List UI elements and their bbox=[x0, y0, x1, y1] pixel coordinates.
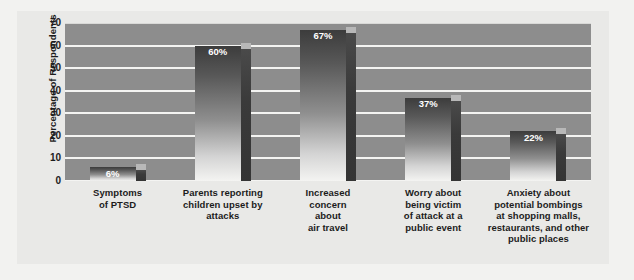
bar-side-face bbox=[556, 134, 566, 181]
category-label-line: public event bbox=[381, 222, 486, 234]
category-label-line: concern bbox=[275, 199, 380, 211]
bar[interactable] bbox=[405, 98, 451, 182]
category-label-line: children upset by bbox=[170, 199, 275, 211]
y-tick-label: 50 bbox=[35, 63, 61, 73]
bar-value-label: 37% bbox=[405, 99, 451, 109]
bars-layer: 6%60%67%37%22% bbox=[65, 23, 591, 181]
bar[interactable] bbox=[300, 30, 346, 181]
bar-side-face bbox=[451, 101, 461, 182]
bar-side-face bbox=[136, 170, 146, 181]
category-label-line: air travel bbox=[275, 222, 380, 234]
category-label-line: being victim bbox=[381, 199, 486, 211]
bar-top-face bbox=[136, 164, 146, 170]
y-tick-label: 10 bbox=[35, 153, 61, 163]
bar-top-face bbox=[241, 43, 251, 49]
bar-group[interactable]: 6% bbox=[90, 23, 146, 181]
category-label: Parents reportingchildren upset byattack… bbox=[170, 187, 275, 222]
bar-top-face bbox=[451, 95, 461, 101]
bar-side-face bbox=[241, 49, 251, 181]
category-label-line: potential bombings bbox=[486, 199, 591, 211]
y-tick-label: 30 bbox=[35, 108, 61, 118]
category-label-line: public places bbox=[486, 233, 591, 245]
bar-side-face bbox=[346, 33, 356, 181]
bar-group[interactable]: 37% bbox=[405, 23, 461, 181]
bar-value-label: 67% bbox=[300, 31, 346, 41]
category-label-line: of PTSD bbox=[65, 199, 170, 211]
y-tick-label: 60 bbox=[35, 41, 61, 51]
bar-top-face bbox=[346, 27, 356, 33]
category-label: Anxiety aboutpotential bombingsat shoppi… bbox=[486, 187, 591, 245]
category-label-line: Parents reporting bbox=[170, 187, 275, 199]
category-label-line: Symptoms bbox=[65, 187, 170, 199]
category-label-line: Anxiety about bbox=[486, 187, 591, 199]
y-tick-label: 20 bbox=[35, 131, 61, 141]
bar-value-label: 60% bbox=[195, 47, 241, 57]
category-label-line: at shopping malls, bbox=[486, 210, 591, 222]
bar-group[interactable]: 60% bbox=[195, 23, 251, 181]
bar-top-face bbox=[556, 128, 566, 134]
bar-value-label: 6% bbox=[90, 169, 136, 179]
category-label-line: Worry about bbox=[381, 187, 486, 199]
category-label-line: of attack at a bbox=[381, 210, 486, 222]
category-label-line: attacks bbox=[170, 210, 275, 222]
bar-group[interactable]: 22% bbox=[510, 23, 566, 181]
y-tick-label: 70 bbox=[35, 18, 61, 28]
bar[interactable] bbox=[195, 46, 241, 181]
category-label-line: restaurants, and other bbox=[486, 222, 591, 234]
category-label-line: Increased bbox=[275, 187, 380, 199]
x-axis-category-labels: Symptomsof PTSDParents reportingchildren… bbox=[65, 187, 591, 257]
category-label: Worry aboutbeing victimof attack at apub… bbox=[381, 187, 486, 233]
y-tick-label: 0 bbox=[35, 176, 61, 186]
y-axis-tick-labels: 706050403020100 bbox=[35, 23, 61, 181]
category-label-line: about bbox=[275, 210, 380, 222]
category-label: Symptomsof PTSD bbox=[65, 187, 170, 210]
bar-value-label: 22% bbox=[510, 133, 556, 143]
category-label: Increasedconcernaboutair travel bbox=[275, 187, 380, 233]
chart-panel: Percentage of Respondents 70605040302010… bbox=[17, 11, 609, 264]
bar-group[interactable]: 67% bbox=[300, 23, 356, 181]
y-tick-label: 40 bbox=[35, 86, 61, 96]
